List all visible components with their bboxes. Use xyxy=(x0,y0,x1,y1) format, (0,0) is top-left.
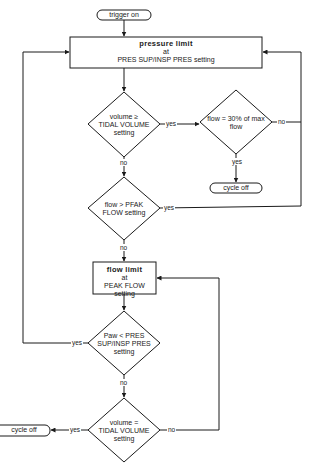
flowchart-canvas xyxy=(0,0,313,474)
edge-label-vol-eq-yes: yes xyxy=(69,426,81,433)
decision-paw: Paw < PRES SUP/INSP PRES setting xyxy=(90,332,158,356)
pressure-limit-title: pressure limit xyxy=(70,40,262,48)
flow-limit-title: flow limit xyxy=(93,266,156,274)
decision-volume-ge-line2: TIDAL VOLUME xyxy=(90,121,158,129)
flow-limit-setting: PEAK FLOW setting xyxy=(93,282,156,298)
cycle-off-left-label: cycle off xyxy=(11,426,37,433)
edge-label-paw-yes: yes xyxy=(71,339,83,346)
pressure-limit-at: at xyxy=(70,48,262,56)
decision-flow-30: flow = 30% of max flow xyxy=(200,115,272,131)
cycle-off-left: cycle off xyxy=(0,426,48,434)
decision-volume-eq-line3: setting xyxy=(90,435,158,443)
decision-flow-peak-line2: FLOW setting xyxy=(90,209,158,217)
pressure-limit-setting: PRES SUP/INSP PRES setting xyxy=(70,56,262,64)
start-terminal-label: trigger on xyxy=(109,11,139,18)
decision-flow-30-line1: flow = 30% of max xyxy=(200,115,272,123)
cycle-off-right: cycle off xyxy=(210,184,262,192)
decision-volume-ge: volume ≥ TIDAL VOLUME setting xyxy=(90,113,158,137)
decision-volume-eq-line2: TIDAL VOLUME xyxy=(90,427,158,435)
decision-volume-eq: volume = TIDAL VOLUME setting xyxy=(90,419,158,443)
edge-label-vol-eq-no: no xyxy=(167,426,176,433)
decision-flow-peak-line1: flow > PFAK xyxy=(90,201,158,209)
edge-label-vol-ge-no: no xyxy=(119,159,128,166)
decision-paw-line1: Paw < PRES xyxy=(90,332,158,340)
decision-paw-line2: SUP/INSP PRES xyxy=(90,340,158,348)
decision-volume-ge-line1: volume ≥ xyxy=(90,113,158,121)
decision-volume-ge-line3: setting xyxy=(90,129,158,137)
start-terminal: trigger on xyxy=(97,11,151,19)
decision-paw-line3: setting xyxy=(90,348,158,356)
flow-limit-at: at xyxy=(93,274,156,282)
decision-flow-30-line2: flow xyxy=(200,123,272,131)
edge-label-flow30-no: no xyxy=(277,118,286,125)
edge-label-flow30-yes: yes xyxy=(231,158,243,165)
cycle-off-right-label: cycle off xyxy=(223,184,249,191)
decision-flow-peak: flow > PFAK FLOW setting xyxy=(90,201,158,217)
decision-volume-eq-line1: volume = xyxy=(90,419,158,427)
edge-label-vol-ge-yes: yes xyxy=(165,120,177,127)
edge-label-flowpeak-yes: yes xyxy=(163,204,175,211)
edge-label-flowpeak-no: no xyxy=(119,244,128,251)
flow-limit-box: flow limit at PEAK FLOW setting xyxy=(93,266,156,298)
edge-label-paw-no: no xyxy=(119,379,128,386)
pressure-limit-box: pressure limit at PRES SUP/INSP PRES set… xyxy=(70,40,262,64)
